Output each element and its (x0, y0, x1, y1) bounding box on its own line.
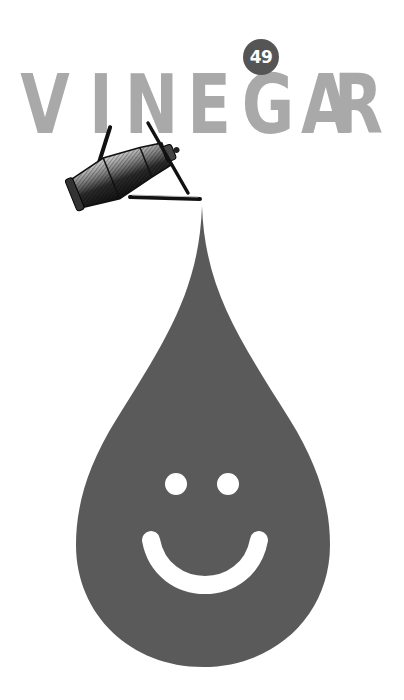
smiley-drop-icon (0, 0, 404, 700)
right-eye-icon (217, 473, 239, 495)
left-eye-icon (165, 473, 187, 495)
drop-shape (76, 206, 330, 667)
